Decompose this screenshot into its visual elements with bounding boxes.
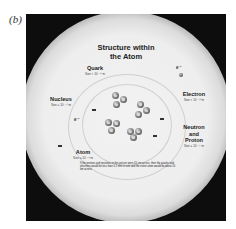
neutron-proton-size: Size = 10⁻¹⁵ m: [176, 144, 212, 148]
quark-label: Quark: [80, 65, 110, 72]
title-line-1: Structure within: [26, 43, 226, 52]
nucleus-label: Nucleus: [44, 96, 78, 103]
atom-structure-diagram: Structure within the Atom Quark Size < 1…: [26, 14, 226, 221]
pointer-arrow: [58, 145, 62, 147]
pointer-arrow: [153, 135, 157, 137]
quark-down: d: [120, 96, 127, 103]
quark-up: u: [105, 119, 112, 126]
quark-down: d: [130, 134, 137, 141]
electron-symbol-left: e⁻: [74, 117, 80, 122]
diagram-title: Structure within the Atom: [26, 43, 226, 61]
atom-label: Atom: [66, 149, 100, 156]
quark-up: u: [113, 101, 120, 108]
electron-label: Electron: [176, 91, 212, 98]
quark-down: d: [113, 120, 120, 127]
electron-symbol-top: e⁻: [176, 65, 182, 70]
electron-top: [179, 73, 183, 77]
quark-size: Size < 10⁻¹⁹ m: [80, 72, 110, 76]
panel-label: (b): [9, 13, 22, 25]
atom-size: Size = 10⁻¹⁰ m: [66, 156, 100, 160]
electron-size: Size < 10⁻¹⁸ m: [176, 98, 212, 102]
quark-up: u: [112, 92, 119, 99]
quark-down: d: [135, 111, 142, 118]
title-line-2: the Atom: [26, 52, 226, 61]
quark-down: d: [137, 101, 144, 108]
proton-text: Proton: [174, 137, 214, 144]
pointer-arrow: [92, 109, 96, 111]
quark-up: u: [135, 128, 142, 135]
neutron-proton-label: Neutron and Proton: [174, 124, 214, 144]
pointer-arrow: [160, 118, 164, 120]
quark-up: u: [143, 107, 150, 114]
quark-down: d: [108, 127, 115, 134]
nucleus-size: Size = 10⁻¹⁴ m: [44, 103, 78, 107]
scale-caption: If the protons and neutrons in this pict…: [80, 162, 176, 172]
